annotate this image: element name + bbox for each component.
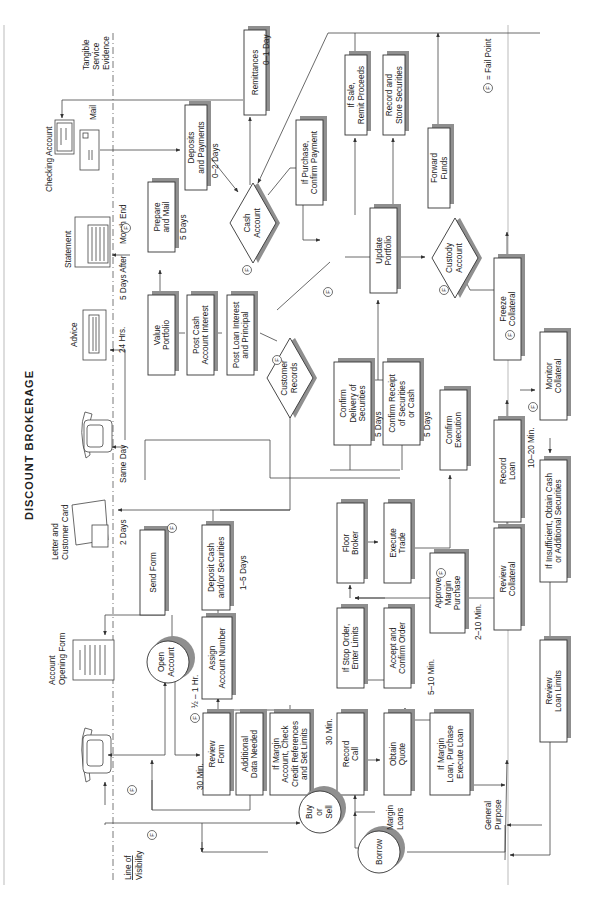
- box-label-line: Assign: [208, 645, 217, 670]
- box-insufficient: If Insufficient, Obtain Cashor Additiona…: [540, 456, 571, 582]
- diagram-title: DISCOUNT BROKERAGE: [23, 370, 35, 520]
- note-5-days-after: 5 Days After: [119, 255, 128, 300]
- box-confirm-delivery: ConfirmDelivery ofSecurities: [334, 358, 375, 445]
- box-label-line: and/or Securities: [217, 537, 226, 598]
- box-label-line: Floor: [342, 533, 351, 552]
- fail-point-icon: F: [440, 286, 449, 295]
- note-half-hour: ½ – 1 Hr.: [191, 675, 200, 708]
- box-label-line: Loan Limits: [554, 670, 563, 712]
- fail-point-icon: F: [168, 524, 177, 533]
- svg-text:F: F: [485, 86, 491, 90]
- box-label-line: Purchase: [453, 575, 462, 610]
- evidence-checking-account: Checking Account: [45, 120, 74, 192]
- line-of-visibility-label: Line of Visibility: [124, 850, 144, 880]
- box-label-line: Quote: [398, 742, 407, 765]
- box-label-line: Delivery of: [349, 383, 358, 422]
- svg-text:or: or: [315, 808, 324, 816]
- box-additional-data: AdditionalData Needed: [236, 709, 267, 795]
- fail-point-icon: F: [437, 569, 446, 578]
- box-label-line: Account Number: [218, 627, 227, 688]
- svg-text:F: F: [123, 226, 129, 230]
- svg-text:Account: Account: [167, 646, 176, 676]
- box-label-line: Send Form: [149, 552, 158, 593]
- box-label-line: Securities: [358, 386, 367, 422]
- box-label-line: Freeze: [499, 296, 508, 322]
- svg-text:Statement: Statement: [64, 230, 73, 268]
- svg-text:Margin: Margin: [386, 805, 395, 830]
- box-label-line: Portfolio: [162, 320, 171, 350]
- box-execute-trade: ExecuteTrade: [384, 499, 415, 583]
- box-label-line: Deposits: [187, 132, 196, 164]
- svg-text:Cash: Cash: [243, 213, 252, 233]
- box-record-loan: RecordLoan: [494, 416, 525, 522]
- box-label-line: Obtain: [389, 741, 398, 766]
- box-post-cash: Post CashAccount Interest: [187, 291, 218, 375]
- box-label-line: If Purchase,: [301, 141, 310, 185]
- svg-text:Tangible: Tangible: [82, 39, 91, 70]
- box-forward-funds: ForwardFunds: [428, 124, 454, 208]
- box-label-line: Record: [499, 457, 508, 484]
- box-label-line: Trade: [398, 532, 407, 554]
- box-label-line: and Payments: [197, 121, 206, 173]
- svg-text:F: F: [192, 716, 198, 720]
- box-label-line: Post Cash: [192, 316, 201, 354]
- box-post-loan: Post Loan Interestand Principal: [227, 291, 258, 375]
- box-label-line: Enter Limits: [351, 626, 360, 669]
- svg-text:Customer Card: Customer Card: [61, 504, 70, 560]
- box-label-line: Post Loan Interest: [232, 301, 241, 368]
- fail-point-icon: F: [484, 84, 493, 93]
- svg-text:Account: Account: [455, 242, 464, 272]
- box-label-line: or Additional Securities: [554, 479, 563, 562]
- svg-text:Sell: Sell: [325, 805, 334, 819]
- svg-text:General: General: [484, 801, 493, 830]
- box-label-line: Review: [208, 740, 217, 767]
- box-label-line: Monitor: [545, 362, 554, 390]
- box-label-line: Collateral: [508, 292, 517, 327]
- box-label-line: Confirm: [339, 389, 348, 418]
- box-label-line: Account Interest: [201, 305, 210, 365]
- box-prepare-mail: Prepareand Mail: [148, 178, 179, 252]
- box-label-line: Loan: [508, 461, 517, 480]
- box-label-line: Update: [375, 237, 384, 264]
- box-label-line: Confirm Order: [398, 622, 407, 674]
- note-5-days-receipt: 5 Days: [423, 412, 432, 437]
- box-label-line: Funds: [440, 157, 449, 180]
- fail-point-icon: F: [191, 714, 200, 723]
- box-margin-account: If MarginAccount, CheckCredit References…: [270, 709, 314, 795]
- fail-point-icon: F: [128, 786, 137, 795]
- box-label-line: Review: [545, 677, 554, 704]
- diamond-customer-records: Customer Records: [267, 338, 317, 418]
- box-approve-margin: ApproveMarginPurchase: [430, 549, 469, 633]
- fail-point-icon: F: [529, 403, 538, 412]
- note-1-5-days: 1–5 Days: [239, 555, 248, 590]
- box-label-line: Portfolio: [384, 235, 393, 265]
- note-0-1-day: 0–1 Day: [262, 34, 271, 65]
- box-label-line: Broker: [351, 531, 360, 555]
- box-deposit-cash: Deposit Cashand/or Securities: [202, 521, 234, 610]
- box-label-line: Call: [351, 747, 360, 761]
- box-review-loan-limits: ReviewLoan Limits: [540, 636, 571, 742]
- evidence-mail: Mail: [80, 105, 99, 170]
- box-label-line: Deposit Cash: [207, 542, 216, 592]
- svg-text:Records: Records: [290, 363, 299, 394]
- fail-points: FFFFFFFFFFFF: [122, 224, 538, 840]
- box-record-store: Record andStore Securities: [383, 51, 409, 135]
- box-label-line: Collateral: [554, 359, 563, 394]
- evidence-account-opening-form: Account Opening Form: [48, 632, 114, 685]
- svg-text:F: F: [438, 571, 444, 575]
- fail-point-icon: F: [506, 331, 515, 340]
- box-label-line: Record: [342, 740, 351, 767]
- note-5-10-min: 5–10 Min.: [427, 659, 436, 695]
- box-label-line: If Insufficient, Obtain Cash: [545, 473, 554, 569]
- box-deposits-payments: Depositsand Payments: [185, 101, 211, 190]
- svg-text:Letter and: Letter and: [51, 523, 60, 560]
- svg-text:Visibility: Visibility: [135, 850, 144, 880]
- box-assign-account: AssignAccount Number: [202, 613, 236, 699]
- box-label-line: Store Securities: [395, 66, 404, 124]
- box-confirm-execution: ConfirmExecution: [440, 386, 471, 470]
- box-label-line: If Sale,: [347, 82, 356, 108]
- box-label-line: and Set Limits: [300, 728, 309, 780]
- fail-point-icon: F: [243, 266, 252, 275]
- diamond-cash-account: Cash Account: [230, 183, 280, 263]
- box-stop-order: If Stop Order,Enter Limits: [337, 604, 368, 688]
